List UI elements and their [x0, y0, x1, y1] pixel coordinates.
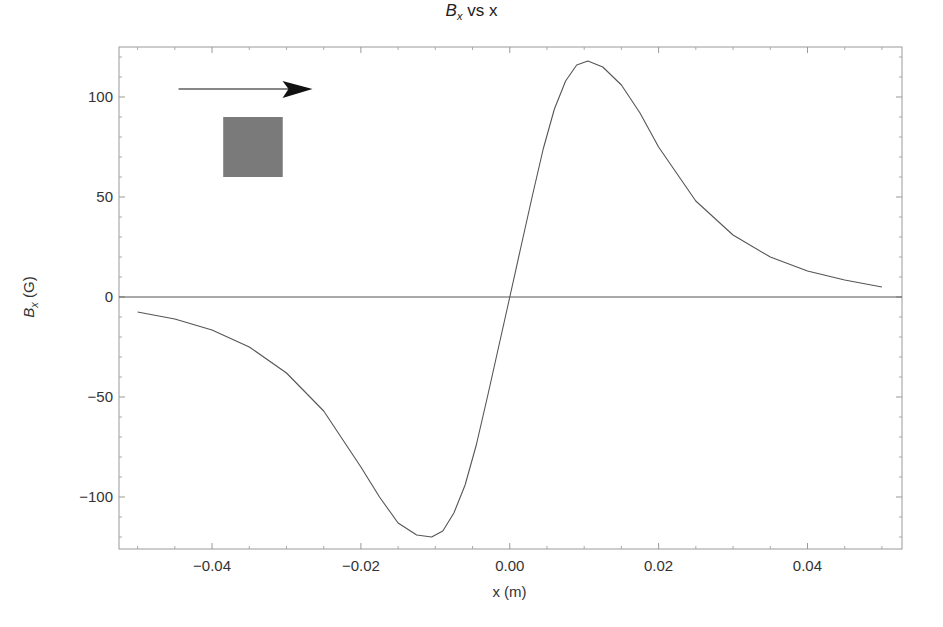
- y-tick-label: −100: [79, 488, 113, 505]
- axis-tick-labels: −0.04−0.020.000.020.04−100−50050100: [79, 88, 822, 574]
- x-tick-label: 0.04: [793, 557, 822, 574]
- ylabel-rest: (G): [20, 276, 37, 302]
- x-tick-label: 0.00: [495, 557, 524, 574]
- magnet-square-icon: [223, 117, 283, 177]
- y-tick-label: 0: [105, 288, 113, 305]
- plot-canvas: −0.04−0.020.000.020.04−100−50050100: [0, 0, 943, 627]
- x-tick-label: 0.02: [644, 557, 673, 574]
- ylabel-b: B: [20, 308, 37, 318]
- ylabel-sub: x: [28, 302, 40, 308]
- annotations: [179, 81, 313, 177]
- y-tick-label: 100: [88, 88, 113, 105]
- x-tick-label: −0.04: [193, 557, 231, 574]
- x-tick-label: −0.02: [342, 557, 380, 574]
- y-tick-label: −50: [88, 388, 113, 405]
- y-axis-label: Bx (G): [20, 276, 40, 317]
- x-axis-label: x (m): [0, 583, 943, 600]
- y-tick-label: 50: [96, 188, 113, 205]
